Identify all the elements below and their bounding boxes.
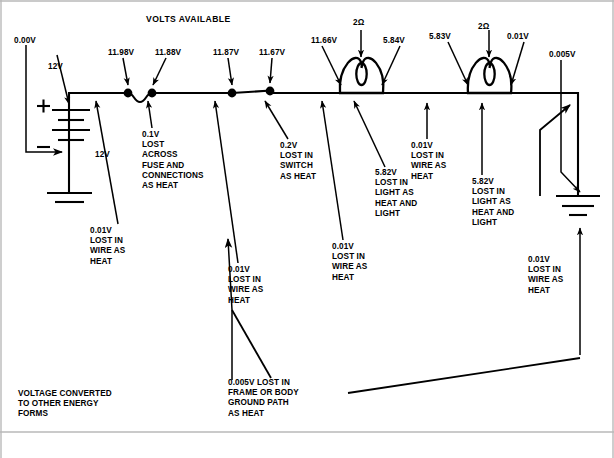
ground-symbol-chassis [556,196,600,215]
lamp-1-resistance-label: 2Ω [353,18,364,28]
battery-polarity-signs [37,100,50,148]
drop-label-wire-between-lamps: 0.01VLOST INWIRE ASHEAT [411,141,446,182]
drop-label-wire-to-lamp1: 0.01VLOST INWIRE ASHEAT [332,242,367,283]
drop-label-fuse: 0.1VLOSTACROSSFUSE ANDCONNECTIONSAS HEAT [142,130,204,191]
diagram-title: VOLTS AVAILABLE [146,14,231,24]
drop-label-wire-to-ground: 0.01VLOST INWIRE ASHEAT [528,255,563,296]
lamp-symbol-1 [340,58,383,93]
circuit-diagram-canvas: VOLTS AVAILABLE 0.00V 12V 11.98V 11.88V … [0,0,614,458]
node-voltage-ground-start: 0.00V [14,36,36,46]
drop-label-lamp2: 5.82VLOST INLIGHT ASHEAT ANDLIGHT [472,177,514,228]
energy-conversion-note: VOLTAGE CONVERTEDTO OTHER ENERGYFORMS [18,389,112,420]
drop-label-wire-before-switch: 0.01VLOST INWIRE ASHEAT [228,265,263,306]
node-voltage-lamp2-out: 0.01V [507,32,529,42]
drop-label-switch: 0.2VLOST INSWITCHAS HEAT [280,141,316,182]
node-dot-before-switch [228,89,237,98]
node-voltage-chassis-ground: 0.005V [549,50,576,60]
node-voltage-battery-positive: 12V [48,62,63,72]
drop-label-wire-battery: 0.01VLOST INWIRE ASHEAT [90,226,125,267]
ground-return-lead [540,105,570,196]
battery-voltage-side-label: 12V [95,150,110,160]
lamp-2-resistance-label: 2Ω [478,22,489,32]
node-dot-after-fuse [148,89,157,98]
node-voltage-after-wire-1: 11.98V [108,48,134,58]
node-dot-after-wire-1 [124,89,133,98]
node-voltage-after-switch: 11.67V [259,48,285,58]
node-voltage-after-fuse: 11.88V [155,48,181,58]
node-dot-after-switch [266,87,275,96]
ground-symbol-battery [47,193,92,202]
node-voltage-lamp1-in: 11.66V [311,36,337,46]
node-voltage-lamp1-out: 5.84V [383,36,405,46]
node-voltage-before-switch: 11.87V [213,48,239,58]
lamp-symbol-2 [468,58,511,93]
drop-label-frame-ground: 0.005V LOST INFRAME OR BODYGROUND PATHAS… [228,378,299,419]
node-voltage-lamp2-in: 5.83V [429,32,451,42]
